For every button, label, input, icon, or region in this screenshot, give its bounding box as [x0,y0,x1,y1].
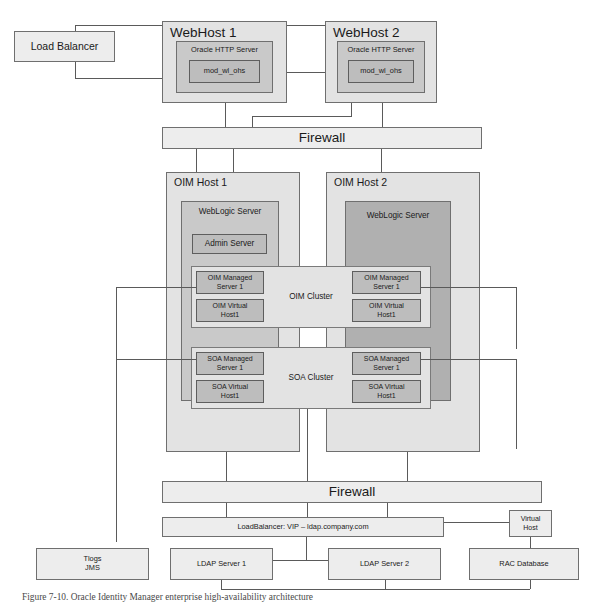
webhost-1-modwlohs[interactable]: mod_wl_ohs [189,60,260,83]
connector-vip-to-virtualhost [444,522,509,523]
weblogic-server-host-1-label: WebLogic Server [182,207,278,217]
tlogs-line2: JMS [83,564,101,573]
connector-webhost1-right-stub [287,72,325,73]
connector-rac-bus-down [530,580,531,589]
oim-virtual-host1-host-1[interactable]: OIM Virtual Host1 [196,299,264,322]
connector-bottom-bus [221,589,530,590]
oim-virtual-host1-host-1-line1: OIM Virtual [213,302,248,310]
connector-firewall-bottom-a [226,503,227,517]
connector-firewall-bottom-b [307,503,308,517]
connector-soa-host2-right-across [421,359,516,360]
oim-host-2-title: OIM Host 2 [327,173,387,188]
architecture-diagram: WebHost 1 Oracle HTTP Server mod_wl_ohs … [0,0,590,611]
connector-webhost2-to-firewall [382,103,383,127]
connector-oim-to-tlogs-across [116,287,196,288]
connector-clusters-to-firewall-bottom [307,409,308,481]
soa-managed-server-1-host-2[interactable]: SOA Managed Server 1 [352,352,421,375]
connector-oim-host2-right-across [421,287,516,288]
soa-managed-server-1-host-1[interactable]: SOA Managed Server 1 [196,352,264,375]
soa-managed-server-1-host-2-line2: Server 1 [364,364,410,372]
firewall-top-label: Firewall [299,130,346,146]
soa-cluster-label: SOA Cluster [288,373,333,383]
soa-virtual-host1-host-1[interactable]: SOA Virtual Host1 [196,380,264,403]
connector-oimhost1-to-firewall-bottom [226,452,227,481]
connector-webhost2-cross-across [252,116,352,117]
webhost-1-ohs-label: Oracle HTTP Server [177,46,272,55]
oim-managed-server-1-host-2[interactable]: OIM Managed Server 1 [352,271,421,294]
webhost-2-ohs-label: Oracle HTTP Server [338,46,424,55]
connector-ldap1-bus-down [221,580,222,589]
oim-managed-server-1-host-2-line2: Server 1 [364,283,408,291]
connector-firewall-to-oimhost1-a [196,149,197,172]
oim-managed-server-1-host-2-line1: OIM Managed [364,274,408,282]
soa-virtual-host1-host-2-line1: SOA Virtual [368,383,404,391]
loadbalancer-vip-box[interactable]: LoadBalancer: VIP – ldap.company.com [162,517,444,537]
soa-virtual-host1-host-1-line1: SOA Virtual [212,383,248,391]
firewall-top-box[interactable]: Firewall [162,127,482,149]
firewall-bottom-box[interactable]: Firewall [162,481,542,503]
oim-managed-server-1-host-1[interactable]: OIM Managed Server 1 [196,271,264,294]
oim-virtual-host1-host-1-line2: Host1 [213,311,248,319]
webhost-2-modwlohs-label: mod_wl_ohs [360,67,402,76]
connector-oimhost2-to-firewall-bottom [407,452,408,481]
connector-soa-to-tlogs-across [116,359,196,360]
tlogs-jms-box[interactable]: Tlogs JMS [36,548,149,580]
connector-firewall-to-oimhost1-b [233,149,234,172]
admin-server-box[interactable]: Admin Server [192,234,267,254]
ldap-server-1-label: LDAP Server 1 [197,560,246,569]
connector-lb-down [75,62,76,78]
connector-oim-host2-right-down [516,287,517,349]
connector-firewall-bottom-c [387,503,388,517]
virtual-host-box[interactable]: Virtual Host [509,510,552,537]
rac-database-box[interactable]: RAC Database [469,548,579,580]
connector-webhost2-cross-into-firewall [252,116,253,127]
oim-virtual-host1-host-2-line2: Host1 [369,311,404,319]
connector-vip-down [306,537,307,560]
virtual-host-line1: Virtual [521,515,541,523]
load-balancer-label: Load Balancer [31,40,99,52]
oim-host-1-title: OIM Host 1 [167,173,227,188]
load-balancer-box[interactable]: Load Balancer [14,31,115,62]
connector-firewall-to-oimhost2 [381,149,382,172]
connector-lb-bottom-across [75,78,170,79]
oim-managed-server-1-host-1-line2: Server 1 [208,283,252,291]
firewall-bottom-label: Firewall [329,484,376,500]
admin-server-label: Admin Server [205,239,255,249]
virtual-host-line2: Host [521,524,541,532]
webhost-1-modwlohs-label: mod_wl_ohs [204,67,246,76]
loadbalancer-vip-label: LoadBalancer: VIP – ldap.company.com [237,523,368,532]
soa-managed-server-1-host-1-line1: SOA Managed [207,355,253,363]
soa-virtual-host1-host-2-line2: Host1 [368,392,404,400]
connector-tlogs-vertical [116,287,117,542]
connector-webhost2-cross-down [351,103,352,116]
webhost-1-title: WebHost 1 [163,22,237,41]
oim-cluster-label: OIM Cluster [289,292,333,302]
oim-virtual-host1-host-2-line1: OIM Virtual [369,302,404,310]
rac-database-label: RAC Database [499,560,548,569]
weblogic-server-host-2-label: WebLogic Server [346,211,450,221]
figure-caption: Figure 7-10. Oracle Identity Manager ent… [22,592,562,602]
webhost-2-title: WebHost 2 [326,22,400,41]
soa-virtual-host1-host-1-line2: Host1 [212,392,248,400]
soa-virtual-host1-host-2[interactable]: SOA Virtual Host1 [352,380,421,403]
oim-virtual-host1-host-2[interactable]: OIM Virtual Host1 [352,299,421,322]
ldap-server-2-box[interactable]: LDAP Server 2 [328,548,441,580]
oim-managed-server-1-host-1-line1: OIM Managed [208,274,252,282]
soa-managed-server-1-host-2-line1: SOA Managed [364,355,410,363]
connector-virtualhost-to-rac [530,537,531,548]
soa-managed-server-1-host-1-line2: Server 1 [207,364,253,372]
ldap-server-2-label: LDAP Server 2 [360,560,409,569]
connector-soa-host2-right-down [516,359,517,449]
connector-webhost1-to-firewall [225,103,226,127]
ldap-server-1-box[interactable]: LDAP Server 1 [170,548,273,580]
connector-ldap2-bus-down [385,580,386,589]
webhost-2-modwlohs[interactable]: mod_wl_ohs [348,60,414,83]
